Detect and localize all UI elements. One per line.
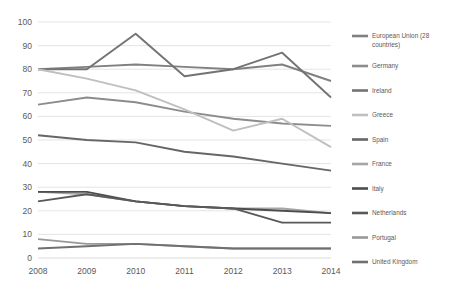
- legend-label-netherlands: Netherlands: [372, 209, 406, 216]
- chart-canvas: 0102030405060708090100 20082009201020112…: [0, 0, 454, 287]
- x-tick-2008: 2008: [29, 266, 48, 276]
- series-lines: [38, 34, 331, 249]
- x-tick-2011: 2011: [175, 266, 194, 276]
- x-axis-tick-labels: 2008200920102011201220132014: [29, 266, 341, 276]
- y-tick-100: 100: [18, 17, 32, 27]
- series-line-united-kingdom: [38, 244, 331, 249]
- legend-label-united-kingdom: United Kingdom: [372, 258, 417, 266]
- y-tick-80: 80: [23, 64, 33, 74]
- x-tick-2014: 2014: [322, 266, 341, 276]
- legend-label-ireland: Ireland: [372, 87, 392, 94]
- x-tick-2013: 2013: [273, 266, 292, 276]
- y-tick-60: 60: [23, 111, 33, 121]
- x-tick-2012: 2012: [224, 266, 243, 276]
- x-tick-2010: 2010: [126, 266, 145, 276]
- y-tick-40: 40: [23, 159, 33, 169]
- legend-label-european-union-28-countries: European Union (28countries): [372, 32, 430, 49]
- legend-label-spain: Spain: [372, 136, 389, 144]
- series-line-spain: [38, 135, 331, 170]
- y-tick-90: 90: [23, 41, 33, 51]
- y-tick-50: 50: [23, 135, 33, 145]
- legend-label-france: France: [372, 160, 392, 167]
- legend-label-greece: Greece: [372, 111, 393, 118]
- legend-label-italy: Italy: [372, 185, 385, 193]
- y-tick-10: 10: [23, 229, 33, 239]
- y-tick-30: 30: [23, 182, 33, 192]
- legend-label-portugal: Portugal: [372, 234, 396, 242]
- y-tick-70: 70: [23, 88, 33, 98]
- chart-legend: European Union (28countries)GermanyIrela…: [352, 32, 430, 266]
- legend-label-germany: Germany: [372, 62, 399, 70]
- series-line-greece: [38, 69, 331, 147]
- y-tick-0: 0: [27, 253, 32, 263]
- y-tick-20: 20: [23, 206, 33, 216]
- x-tick-2009: 2009: [77, 266, 96, 276]
- y-axis-tick-labels: 0102030405060708090100: [18, 17, 32, 263]
- line-chart: 0102030405060708090100 20082009201020112…: [0, 0, 454, 287]
